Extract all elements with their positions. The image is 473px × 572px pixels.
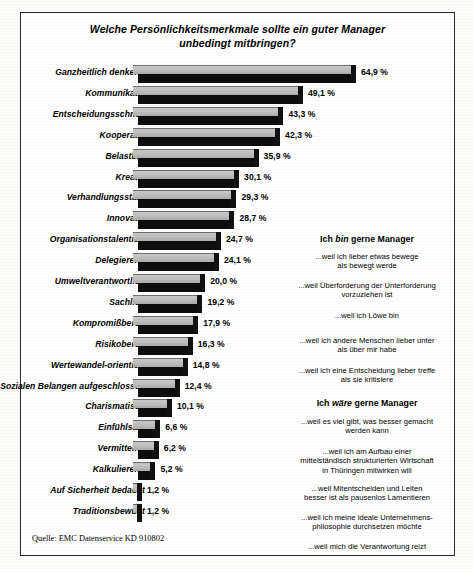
- bar: [133, 337, 188, 355]
- bar: [133, 295, 197, 313]
- bar: [133, 253, 214, 271]
- bar-value-label: 20,0 %: [210, 276, 237, 286]
- bar-end-cap: [216, 232, 221, 250]
- bar-value-label: 12,4 %: [185, 381, 212, 391]
- bar-end-cap: [137, 504, 142, 522]
- bar-top-face: [133, 232, 216, 241]
- page-title: Welche Persönlichkeitsmerkmale sollte ei…: [40, 22, 435, 50]
- bar: [133, 211, 229, 229]
- bar-value-label: 5,2 %: [160, 464, 182, 474]
- bar-value-label: 6,6 %: [165, 422, 187, 432]
- bar: [133, 190, 231, 208]
- bar-top-face: [133, 337, 188, 346]
- bar: [133, 399, 167, 417]
- bar-end-cap: [183, 358, 188, 376]
- bar-value-label: 24,7 %: [226, 234, 253, 244]
- category-label: Entscheidungsschnell: [53, 109, 145, 119]
- bar-top-face: [133, 358, 183, 367]
- bar-front-face: [138, 95, 303, 104]
- annotation-text: ...weil Überforderung der Unterforderung…: [283, 281, 451, 300]
- bar: [133, 441, 154, 459]
- bar-end-cap: [155, 420, 160, 438]
- bar-front-face: [138, 367, 188, 376]
- bar-end-cap: [175, 379, 180, 397]
- title-line-1: Welche Persönlichkeitsmerkmale sollte ei…: [40, 22, 435, 36]
- bar-end-cap: [167, 399, 172, 417]
- bar: [133, 316, 193, 334]
- bar-end-cap: [229, 211, 234, 229]
- annotation-emphasis: bin: [335, 234, 348, 244]
- bar-front-face: [138, 262, 219, 271]
- bar-top-face: [133, 399, 167, 408]
- annotation-text: ...weil ich andere Menschen lieber unter…: [283, 336, 451, 355]
- bar-value-label: 17,9 %: [203, 318, 230, 328]
- bar-value-label: 1,2 %: [147, 506, 169, 516]
- bar-value-label: 1,2 %: [147, 485, 169, 495]
- category-label: Wertewandel-orientiert: [51, 360, 145, 370]
- category-label: Auf Sicherheit bedacht: [50, 485, 145, 495]
- bar-end-cap: [200, 274, 205, 292]
- annotation-heading: Ich bin gerne Manager: [283, 235, 451, 244]
- bar-top-face: [133, 295, 197, 304]
- category-label-box: Traditionsbewußt: [21, 501, 145, 525]
- annotation-text: ...weil ich eine Entscheidung lieber tre…: [283, 366, 451, 385]
- bar-end-cap: [298, 86, 303, 104]
- bar: [133, 358, 183, 376]
- bar: [133, 86, 298, 104]
- bar-front-face: [138, 158, 259, 167]
- bar-value-label: 30,1 %: [244, 172, 271, 182]
- bar-front-face: [138, 74, 356, 83]
- bar-end-cap: [137, 483, 142, 501]
- bar-top-face: [133, 86, 298, 95]
- bar-top-face: [133, 128, 275, 137]
- bar-value-label: 14,8 %: [193, 360, 220, 370]
- bar-end-cap: [254, 149, 259, 167]
- bar-value-label: 49,1 %: [308, 88, 335, 98]
- bar-end-cap: [150, 462, 155, 480]
- bar-top-face: [133, 379, 175, 388]
- bar-end-cap: [197, 295, 202, 313]
- bar-value-label: 64,9 %: [361, 67, 388, 77]
- bar-end-cap: [351, 65, 356, 83]
- bar-front-face: [138, 116, 283, 125]
- bar-end-cap: [278, 107, 283, 125]
- bar: [133, 149, 254, 167]
- bar-end-cap: [154, 441, 159, 459]
- bar-front-face: [138, 199, 236, 208]
- bar-top-face: [133, 441, 154, 450]
- bar-value-label: 43,3 %: [288, 109, 315, 119]
- category-label: Ganzheitlich denkend: [55, 67, 145, 77]
- bar-end-cap: [275, 128, 280, 146]
- bar-top-face: [133, 107, 278, 116]
- bar-end-cap: [214, 253, 219, 271]
- bar: [133, 232, 216, 250]
- bar: [133, 420, 155, 438]
- bar-value-label: 10,1 %: [177, 401, 204, 411]
- bar-front-face: [138, 179, 239, 188]
- source-note: Quelle: EMC Datenservice KD 910802: [32, 534, 164, 543]
- bar: [133, 462, 150, 480]
- bar-end-cap: [188, 337, 193, 355]
- bar-value-label: 35,9 %: [264, 151, 291, 161]
- title-line-2: unbedingt mitbringen?: [40, 36, 435, 50]
- bar-value-label: 19,2 %: [207, 297, 234, 307]
- annotation-text: ...weil mich die Verantwortung reizt: [283, 542, 451, 551]
- bar-top-face: [133, 211, 229, 220]
- bar: [133, 107, 278, 125]
- bar: [133, 65, 351, 83]
- chart-page: Welche Persönlichkeitsmerkmale sollte ei…: [0, 0, 473, 572]
- bar-front-face: [138, 346, 193, 355]
- bar-top-face: [133, 149, 254, 158]
- bar-front-face: [138, 283, 205, 292]
- bar-end-cap: [234, 170, 239, 188]
- bar: [133, 170, 234, 188]
- bar-value-label: 42,3 %: [285, 130, 312, 140]
- bar-value-label: 6,2 %: [164, 443, 186, 453]
- bar: [133, 504, 137, 522]
- bar-value-label: 16,3 %: [198, 339, 225, 349]
- annotation-emphasis: wäre: [332, 398, 352, 408]
- bar-front-face: [138, 137, 280, 146]
- category-label: Organisationstalentiert: [50, 234, 145, 244]
- bar: [133, 379, 175, 397]
- bar: [133, 128, 275, 146]
